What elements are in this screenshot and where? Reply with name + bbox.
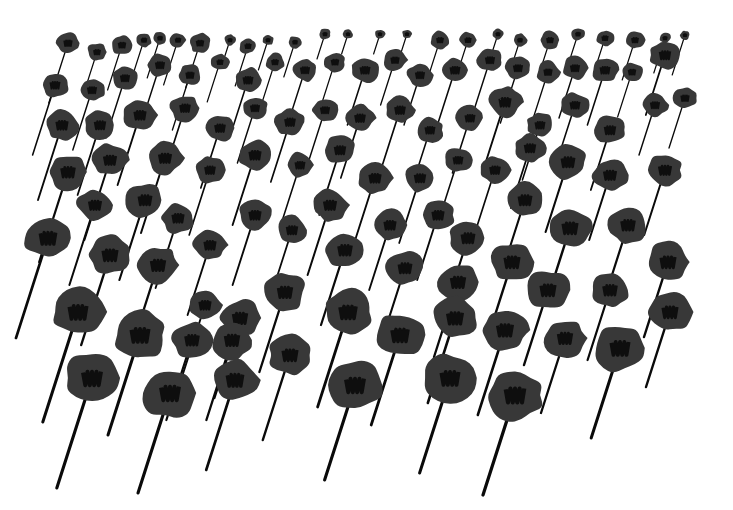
flower-center-scribble: [465, 38, 471, 42]
flower-center-scribble: [94, 50, 100, 55]
flower-center-scribble: [576, 32, 580, 35]
flower-center-scribble: [250, 211, 261, 219]
flower-center-scribble: [661, 257, 675, 268]
flower-center-scribble: [346, 379, 364, 393]
flower-center-scribble: [395, 107, 405, 114]
flower-center-scribble: [332, 60, 339, 65]
flower-center-scribble: [622, 221, 635, 231]
flower-center-scribble: [602, 36, 608, 40]
flower-center-scribble: [681, 95, 689, 101]
flower-center-scribble: [205, 241, 216, 249]
flower-center-scribble: [225, 335, 238, 345]
flower-center-scribble: [321, 107, 329, 113]
flower-center-scribble: [611, 342, 628, 355]
flower-center-scribble: [500, 98, 511, 106]
flower-center-scribble: [601, 67, 610, 74]
flower-center-scribble: [518, 38, 522, 41]
flower-center-scribble: [605, 126, 615, 134]
flower-center-scribble: [301, 67, 309, 73]
flower-center-scribble: [562, 158, 574, 167]
flower-center-scribble: [541, 285, 555, 296]
flower-center-scribble: [51, 82, 60, 89]
flower-center-scribble: [466, 115, 475, 122]
flower-center-scribble: [89, 201, 101, 210]
poppy-flower: [319, 29, 330, 40]
flower-center-scribble: [629, 70, 636, 75]
flower-center-scribble: [135, 111, 146, 119]
flower-center-scribble: [159, 154, 171, 163]
poppy-flower: [594, 116, 625, 143]
flower-center-scribble: [339, 246, 352, 256]
flower-center-scribble: [62, 168, 75, 178]
flower-center-scribble: [448, 313, 463, 324]
flower-center-scribble: [525, 144, 535, 152]
flower-center-scribble: [451, 277, 464, 287]
flower-center-scribble: [121, 75, 129, 81]
flower-center-scribble: [180, 105, 190, 112]
flower-center-scribble: [272, 60, 278, 65]
flower-center-scribble: [139, 196, 151, 205]
flower-center-scribble: [104, 156, 116, 165]
poppy-flower: [43, 74, 68, 97]
flower-center-scribble: [278, 287, 291, 297]
flower-center-scribble: [95, 121, 105, 129]
flower-center-scribble: [505, 257, 519, 268]
flower-center-scribble: [57, 121, 68, 129]
flower-center-scribble: [340, 306, 356, 318]
flower-center-scribble: [519, 196, 531, 205]
flower-center-scribble: [40, 233, 55, 245]
poppy-flower: [423, 200, 454, 229]
flower-center-scribble: [651, 102, 659, 108]
flower-center-scribble: [227, 375, 242, 387]
flower-center-scribble: [161, 387, 179, 401]
flower-center-scribble: [454, 157, 463, 164]
flower-center-scribble: [416, 72, 424, 78]
flower-center-scribble: [228, 39, 232, 42]
flower-center-scribble: [571, 65, 579, 71]
flower-center-scribble: [103, 250, 117, 261]
poppy-flower: [85, 110, 114, 140]
flower-center-scribble: [244, 77, 253, 84]
flower-center-scribble: [399, 264, 411, 273]
flower-center-scribble: [547, 38, 553, 43]
flower-center-scribble: [659, 166, 671, 175]
flower-center-scribble: [683, 34, 686, 36]
flower-center-scribble: [663, 307, 677, 318]
flower-center-scribble: [462, 234, 474, 243]
flower-center-scribble: [558, 333, 571, 343]
flower-center-scribble: [324, 201, 336, 210]
flower-center-scribble: [175, 38, 180, 42]
flower-center-scribble: [441, 372, 458, 385]
flower-center-scribble: [266, 39, 270, 42]
flower-center-scribble: [361, 67, 370, 74]
flower-center-scribble: [173, 214, 184, 222]
flower-center-scribble: [197, 41, 204, 46]
flower-center-scribble: [433, 211, 444, 219]
flower-center-scribble: [663, 37, 667, 40]
flower-field-artwork: [0, 0, 733, 510]
flower-center-scribble: [490, 167, 500, 174]
flower-center-scribble: [287, 226, 297, 234]
flower-center-scribble: [245, 44, 251, 48]
flower-center-scribble: [141, 38, 146, 42]
poppy-flower: [491, 244, 535, 279]
flower-center-scribble: [536, 122, 545, 129]
flower-center-scribble: [506, 389, 525, 403]
flower-center-scribble: [378, 33, 381, 35]
flower-center-scribble: [186, 336, 199, 346]
flower-center-scribble: [217, 60, 223, 64]
flower-center-scribble: [296, 162, 305, 169]
flower-center-scribble: [293, 40, 297, 43]
flower-center-scribble: [415, 174, 425, 182]
poppy-flower: [325, 135, 355, 162]
flower-center-scribble: [119, 43, 126, 48]
flower-center-scribble: [451, 67, 460, 74]
flower-center-scribble: [335, 146, 345, 154]
flower-center-scribble: [604, 286, 617, 296]
flower-center-scribble: [370, 174, 381, 182]
flower-center-scribble: [205, 167, 215, 174]
flower-center-scribble: [496, 33, 500, 36]
flower-center-scribble: [158, 36, 162, 39]
flower-center-scribble: [250, 151, 261, 159]
flower-center-scribble: [131, 329, 148, 342]
